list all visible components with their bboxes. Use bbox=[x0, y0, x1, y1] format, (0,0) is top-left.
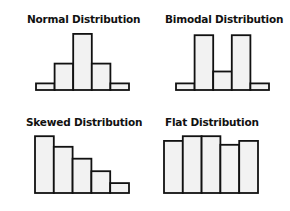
histogram-bar bbox=[91, 171, 110, 193]
histogram-bar bbox=[183, 136, 202, 193]
distribution-charts bbox=[0, 0, 290, 211]
flat-distribution-histogram bbox=[164, 136, 258, 193]
histogram-bar bbox=[250, 83, 269, 90]
normal-distribution-histogram bbox=[36, 34, 129, 90]
histogram-bar bbox=[110, 83, 129, 90]
histogram-bar bbox=[232, 35, 251, 90]
histogram-bar bbox=[35, 136, 54, 193]
histogram-bar bbox=[202, 136, 221, 193]
histogram-bar bbox=[176, 83, 195, 90]
histogram-bar bbox=[54, 147, 73, 193]
histogram-bar bbox=[164, 141, 183, 193]
histogram-bar bbox=[73, 34, 92, 90]
histogram-bar bbox=[73, 159, 92, 193]
histogram-bar bbox=[239, 141, 258, 193]
histogram-bar bbox=[92, 64, 111, 90]
histogram-bar bbox=[220, 145, 239, 193]
histogram-bar bbox=[110, 183, 129, 193]
bimodal-distribution-histogram bbox=[176, 35, 269, 90]
histogram-bar bbox=[195, 35, 214, 90]
histogram-bar bbox=[213, 72, 232, 91]
histogram-bar bbox=[36, 83, 55, 90]
histogram-bar bbox=[55, 64, 74, 90]
skewed-distribution-histogram bbox=[35, 136, 129, 193]
